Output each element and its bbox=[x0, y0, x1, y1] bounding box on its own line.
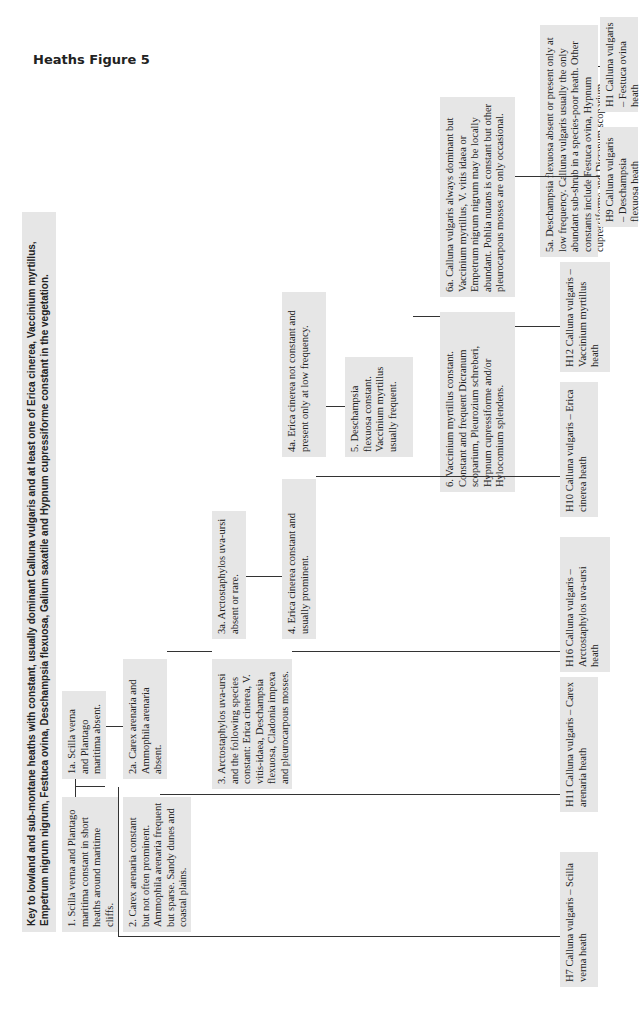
outcome-H7: H7 Calluna vulgaris – Scilla verna heath bbox=[560, 852, 598, 987]
connector bbox=[316, 476, 560, 477]
connector bbox=[292, 651, 560, 652]
key-node-6: 6. Vaccinium myrtillus constant. Constan… bbox=[440, 312, 515, 492]
connector bbox=[118, 787, 119, 937]
key-node-1a: 1a. Scilla verna and Plantago maritima a… bbox=[62, 691, 106, 779]
connector bbox=[598, 66, 600, 67]
connector bbox=[106, 726, 123, 727]
key-node-6a: 6a. Calluna vulgaris always dominant but… bbox=[440, 97, 515, 297]
connector bbox=[160, 794, 560, 795]
connector bbox=[413, 316, 440, 317]
connector bbox=[75, 786, 105, 787]
key-node-2a: 2a. Carex arenaria and Ammophila arenari… bbox=[123, 659, 167, 779]
outcome-H9: H9 Calluna vulgaris – Deschampsia flexuo… bbox=[600, 127, 638, 227]
outcome-H1: H1 Calluna vulgaris – Festuca ovina heat… bbox=[600, 17, 638, 112]
key-node-5a: 5a. Deschampsia flexuosa absent or prese… bbox=[540, 25, 598, 257]
key-node-4a: 4a. Erica cinerea not constant and prese… bbox=[282, 292, 326, 457]
connector bbox=[75, 779, 76, 797]
key-node-4: 4. Erica cinerea constant and usually pr… bbox=[282, 479, 316, 639]
outcome-H12: H12 Calluna vulgaris – Vaccinium myrtill… bbox=[560, 262, 610, 372]
key-node-3a: 3a. Arctostaphylos uva-ursi absent or ra… bbox=[212, 511, 246, 639]
key-node-2: 2. Carex arenaria constant but not often… bbox=[123, 797, 191, 932]
connector bbox=[118, 936, 560, 937]
connector bbox=[515, 326, 560, 327]
connector bbox=[326, 406, 345, 407]
figure-caption: Key to lowland and sub-montane heaths wi… bbox=[22, 212, 56, 932]
connector bbox=[246, 576, 282, 577]
key-diagram: Key to lowland and sub-montane heaths wi… bbox=[0, 0, 644, 1017]
outcome-H10: H10 Calluna vulgaris – Erica cinerea hea… bbox=[560, 382, 598, 517]
key-node-5: 5. Deschampsia flexuosa constant. Vaccin… bbox=[345, 357, 413, 457]
connector bbox=[167, 651, 212, 652]
outcome-H16: H16 Calluna vulgaris – Arctostaphylos uv… bbox=[560, 537, 610, 672]
connector bbox=[515, 176, 600, 177]
outcome-H11: H11 Calluna vulgaris – Carex arenaria he… bbox=[560, 677, 598, 812]
key-node-1: 1. Scilla verna and Plantago maritima co… bbox=[62, 797, 118, 932]
key-node-3: 3. Arctostaphylos uva-ursi and the follo… bbox=[212, 659, 292, 789]
